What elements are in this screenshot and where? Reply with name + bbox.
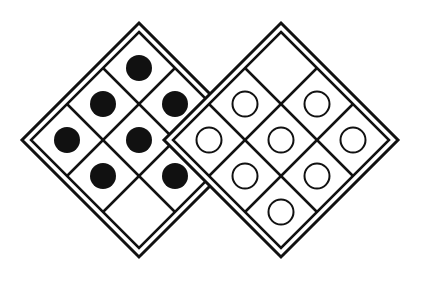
black-dot-icon [162, 91, 188, 117]
puzzle-diagram [0, 0, 422, 282]
right-board [164, 23, 398, 257]
black-dot-icon [90, 91, 116, 117]
two-diamond-boards [0, 0, 422, 282]
black-dot-icon [90, 163, 116, 189]
black-dot-icon [162, 163, 188, 189]
black-dot-icon [54, 127, 80, 153]
white-circle-icon [197, 128, 222, 153]
white-circle-icon [341, 128, 366, 153]
white-circle-icon [233, 164, 258, 189]
white-circle-icon [269, 200, 294, 225]
black-dot-icon [126, 55, 152, 81]
white-circle-icon [305, 92, 330, 117]
white-circle-icon [305, 164, 330, 189]
black-dot-icon [126, 127, 152, 153]
white-circle-icon [269, 128, 294, 153]
white-circle-icon [233, 92, 258, 117]
